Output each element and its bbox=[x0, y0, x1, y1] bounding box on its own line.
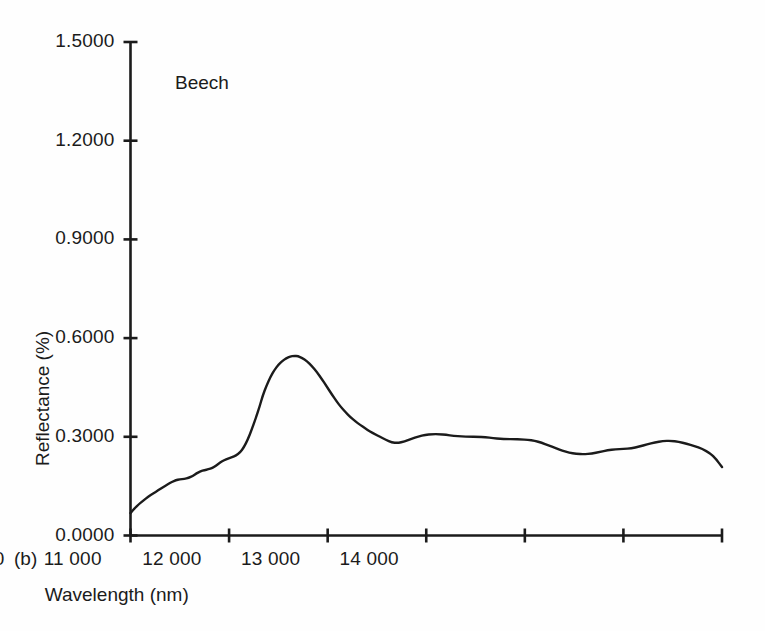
y-tick-label: 0.6000 bbox=[55, 326, 114, 348]
series-layer bbox=[131, 356, 723, 513]
x-tick-label: 10 000 bbox=[0, 548, 5, 570]
panel-label: (b) bbox=[14, 548, 37, 570]
y-tick-label: 0.9000 bbox=[55, 227, 114, 249]
data-line-beech bbox=[131, 356, 723, 513]
y-tick-label: 1.2000 bbox=[55, 129, 114, 151]
y-tick-label: 1.5000 bbox=[55, 30, 114, 52]
series-annotation-beech: Beech bbox=[175, 72, 229, 94]
x-tick-label: 12 000 bbox=[142, 548, 201, 570]
x-tick-label: 13 000 bbox=[241, 548, 300, 570]
x-tick-label: 11 000 bbox=[44, 548, 102, 570]
y-tick-label: 0.3000 bbox=[55, 425, 114, 447]
x-axis-title: Wavelength (nm) bbox=[45, 584, 189, 606]
figure-panel: 0.00000.30000.60000.90001.20001.5000 800… bbox=[0, 0, 765, 631]
x-tick-label: 14 000 bbox=[340, 548, 399, 570]
chart-canvas bbox=[0, 0, 765, 631]
y-tick-label: 0.0000 bbox=[55, 524, 114, 546]
y-axis-title: Reflectance (%) bbox=[32, 330, 54, 465]
